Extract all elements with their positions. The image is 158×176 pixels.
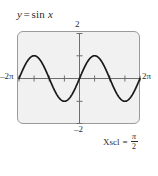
title-function-name: sin bbox=[32, 8, 45, 20]
title-rhs-variable: x bbox=[48, 8, 53, 20]
xscl-numerator: π bbox=[131, 133, 137, 142]
xscl-denominator: 2 bbox=[131, 142, 137, 151]
xscl-fraction: π 2 bbox=[131, 133, 138, 151]
title-equals: = bbox=[22, 8, 31, 20]
sine-graph-figure: y=sin x bbox=[0, 0, 158, 176]
xscl-equals: = bbox=[120, 137, 131, 147]
x-max-label: 2π bbox=[142, 71, 151, 81]
y-max-label: 2 bbox=[75, 19, 80, 29]
plot-canvas bbox=[18, 32, 141, 125]
figure-title: y=sin x bbox=[17, 8, 53, 20]
calculator-screen bbox=[17, 31, 140, 124]
xscl-label: Xscl bbox=[103, 137, 120, 147]
xscl-annotation: Xscl = π 2 bbox=[103, 133, 138, 151]
y-min-label: –2 bbox=[74, 124, 83, 134]
x-min-label: –2π bbox=[0, 71, 14, 81]
